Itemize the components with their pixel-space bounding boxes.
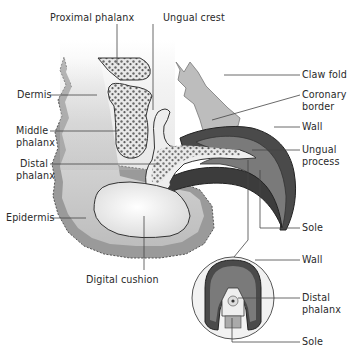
label-digital-cushion: Digital cushion xyxy=(86,274,159,286)
claw-fold xyxy=(176,62,240,134)
inset-label-distal-phalanx-line1: Distal xyxy=(302,292,341,304)
inset-label-wall: Wall xyxy=(302,254,322,266)
label-ungual-process: Ungual process xyxy=(302,144,340,167)
label-ungual-process-line2: process xyxy=(302,156,340,168)
label-distal-phalanx: Distal phalanx xyxy=(16,158,48,181)
label-distal-phalanx-line1: Distal xyxy=(16,158,48,170)
label-ungual-crest: Ungual crest xyxy=(163,12,225,24)
label-wall: Wall xyxy=(302,121,322,133)
inset-label-distal-phalanx-line2: phalanx xyxy=(302,304,341,316)
label-sole: Sole xyxy=(302,222,323,234)
label-dermis: Dermis xyxy=(17,89,52,101)
label-middle-phalanx-line2: phalanx xyxy=(16,137,48,149)
inset-label-sole: Sole xyxy=(302,336,323,348)
label-ungual-process-line1: Ungual xyxy=(302,144,340,156)
label-middle-phalanx-line1: Middle xyxy=(16,125,48,137)
label-proximal-phalanx: Proximal phalanx xyxy=(50,12,134,24)
label-middle-phalanx: Middle phalanx xyxy=(16,125,48,148)
label-coronary-border-line1: Coronary xyxy=(302,89,347,101)
label-coronary-border: Coronary border xyxy=(302,89,347,112)
label-coronary-border-line2: border xyxy=(302,101,347,113)
inset-label-distal-phalanx: Distal phalanx xyxy=(302,292,341,315)
label-claw-fold: Claw fold xyxy=(302,69,347,81)
label-epidermis: Epidermis xyxy=(6,212,55,224)
label-distal-phalanx-line2: phalanx xyxy=(16,170,48,182)
